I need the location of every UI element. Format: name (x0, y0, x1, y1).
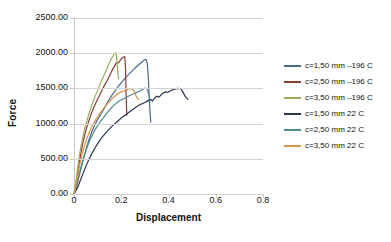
y-tick-label: 500.00 (22, 154, 68, 163)
y-tick-label: 2500.00 (22, 13, 68, 22)
y-tick-mark (70, 159, 74, 160)
y-tick-mark (70, 53, 74, 54)
gridline (74, 159, 263, 160)
x-axis-tick-labels: 00.20.40.60.8 (74, 196, 263, 210)
x-tick-label: 0.8 (257, 196, 270, 205)
legend-item[interactable]: c=3,50 mm –196 C (284, 90, 389, 106)
y-tick-label: 2000.00 (22, 48, 68, 57)
gridline (74, 18, 263, 19)
x-tick-label: 0.6 (209, 196, 222, 205)
legend-item[interactable]: c=2,50 mm –196 C (284, 74, 389, 90)
x-axis-title: Displacement (74, 212, 263, 223)
legend-item[interactable]: c=3,50 mm 22 C (284, 138, 389, 154)
legend-color-swatch (284, 145, 301, 147)
legend: c=1,50 mm –196 Cc=2,50 mm –196 Cc=3,50 m… (284, 58, 389, 154)
legend-label: c=3,50 mm 22 C (305, 142, 364, 150)
legend-label: c=3,50 mm –196 C (305, 94, 373, 102)
legend-label: c=2,50 mm 22 C (305, 126, 364, 134)
series-line (74, 88, 188, 194)
legend-color-swatch (284, 129, 301, 131)
x-tick-label: 0 (71, 196, 76, 205)
gridline (74, 53, 263, 54)
force-displacement-chart: Force 0.00500.001000.001500.002000.00250… (0, 0, 391, 242)
y-tick-mark (70, 88, 74, 89)
legend-color-swatch (284, 113, 301, 115)
legend-color-swatch (284, 97, 301, 99)
y-tick-label: 1000.00 (22, 119, 68, 128)
y-tick-label: 1500.00 (22, 83, 68, 92)
legend-label: c=1,50 mm –196 C (305, 62, 373, 70)
legend-label: c=1,50 mm 22 C (305, 110, 364, 118)
legend-color-swatch (284, 81, 301, 83)
gridline (74, 124, 263, 125)
y-tick-mark (70, 18, 74, 19)
legend-item[interactable]: c=1,50 mm 22 C (284, 106, 389, 122)
y-tick-label: 0.00 (22, 189, 68, 198)
legend-item[interactable]: c=2,50 mm 22 C (284, 122, 389, 138)
legend-label: c=2,50 mm –196 C (305, 78, 373, 86)
x-tick-label: 0.4 (162, 196, 175, 205)
x-tick-label: 0.2 (115, 196, 128, 205)
y-tick-mark (70, 124, 74, 125)
legend-item[interactable]: c=1,50 mm –196 C (284, 58, 389, 74)
y-axis-tick-labels: 0.00500.001000.001500.002000.002500.00 (18, 0, 68, 242)
legend-color-swatch (284, 65, 301, 67)
series-lines (74, 18, 263, 194)
plot-area (74, 18, 263, 194)
gridline (74, 88, 263, 89)
